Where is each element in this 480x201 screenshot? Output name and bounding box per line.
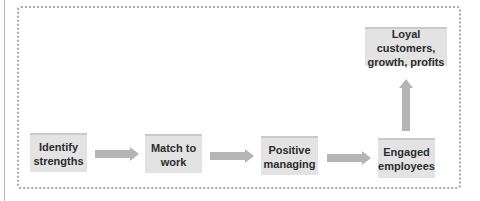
node-label-line2: employees xyxy=(378,159,435,173)
node-match-to-work: Match to work xyxy=(145,134,202,173)
node-label-line2: work xyxy=(151,155,196,169)
arrow-right-icon xyxy=(210,149,254,163)
arrow-up-icon xyxy=(399,79,413,131)
node-label-line1: Match to xyxy=(151,141,196,155)
node-label-line1: Identify xyxy=(33,140,83,154)
node-engaged-employees: Engaged employees xyxy=(378,138,435,178)
node-label-line2: strengths xyxy=(33,154,83,168)
arrow-right-icon xyxy=(95,147,139,161)
node-loyal-customers: Loyal customers, growth, profits xyxy=(365,27,447,66)
node-label-line2: growth, profits xyxy=(365,55,447,69)
node-identify-strengths: Identify strengths xyxy=(30,133,87,172)
node-label-line1: Engaged xyxy=(378,145,435,159)
arrow-right-icon xyxy=(327,151,371,165)
left-margin-rule xyxy=(4,0,5,201)
node-label-line2: managing xyxy=(264,157,316,171)
node-label-line1: Positive xyxy=(264,143,316,157)
node-label-line1: Loyal customers, xyxy=(365,27,447,55)
node-positive-managing: Positive managing xyxy=(261,136,318,175)
